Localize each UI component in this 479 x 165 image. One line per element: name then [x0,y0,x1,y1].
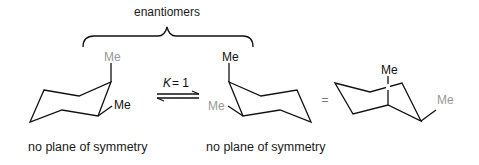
middle-equatorial-methyl-label: Me [208,99,225,113]
enantiomers-label: enantiomers [134,5,200,19]
equilibrium-constant-symbol: K [163,76,172,90]
middle-cyclohexane-ring [229,82,311,122]
left-axial-methyl-label: Me [104,50,121,64]
left-equatorial-methyl-label: Me [114,98,131,112]
right-cyclohexane-ring [335,83,421,121]
middle-chair-structure: Me Me [208,50,311,122]
right-axial-methyl-label: Me [381,63,398,77]
left-chair-structure: Me Me [30,50,131,122]
middle-axial-methyl-label: Me [222,50,239,64]
equilibrium-constant-value: = 1 [172,76,189,90]
equilibrium-arrows: K = 1 [157,76,199,101]
right-equatorial-methyl-bond [421,110,436,121]
right-equatorial-methyl-label: Me [437,93,454,107]
conformer-diagram: enantiomers Me Me K = 1 Me Me = Me Me [0,0,479,165]
right-chair-structure: Me Me [335,63,454,121]
middle-caption: no plane of symmetry [206,140,326,154]
enantiomers-brace [83,27,253,47]
left-caption: no plane of symmetry [28,140,148,154]
equals-sign: = [321,93,328,107]
